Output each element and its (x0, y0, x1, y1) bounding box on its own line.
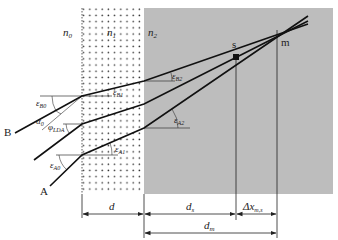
label-dim-d: d (109, 200, 115, 212)
label-m: m (281, 36, 290, 48)
label-ray-B: B (4, 126, 11, 138)
label-dim-ds: ds (186, 200, 195, 214)
point-s-marker (233, 54, 239, 60)
label-eps-A0: εA0 (50, 160, 60, 171)
label-dim-dx: Δxm,s (242, 200, 263, 213)
label-ray-A: A (40, 185, 48, 197)
label-n0: n0 (63, 26, 73, 40)
arc-eps-B0 (52, 96, 56, 111)
refraction-diagram: n0 n1 n2 s m B A εB0 εB1 εB2 α0 φLDA εA0… (0, 0, 338, 240)
arc-phi-LDA (66, 124, 69, 133)
label-phi-LDA: φLDA (48, 122, 65, 133)
label-eps-B0: εB0 (36, 98, 46, 109)
label-dim-dm: dm (204, 219, 215, 233)
label-s: s (232, 38, 236, 50)
medium-n2 (144, 8, 333, 194)
